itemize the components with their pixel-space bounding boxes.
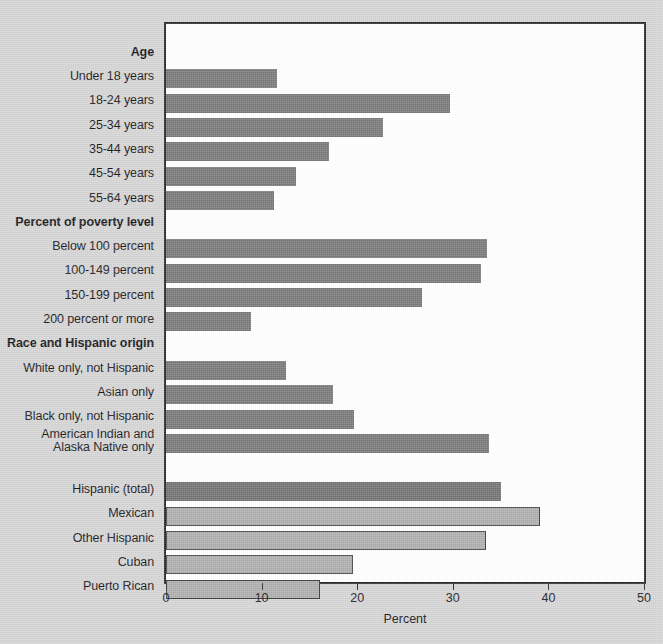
category-label: Below 100 percent xyxy=(52,240,154,254)
category-label: Cuban xyxy=(118,556,154,570)
category-label: 150-199 percent xyxy=(64,289,154,303)
group-header-label: Race and Hispanic origin xyxy=(7,337,154,351)
bar xyxy=(166,118,383,137)
x-tick-label: 10 xyxy=(242,591,282,605)
bar xyxy=(166,555,353,574)
x-tick-mark xyxy=(166,583,167,590)
category-label: 100-149 percent xyxy=(64,264,154,278)
bar xyxy=(166,239,487,258)
category-labels-column: AgeUnder 18 years18-24 years25-34 years3… xyxy=(0,22,160,583)
category-label: Under 18 years xyxy=(70,70,154,84)
x-tick-mark xyxy=(262,583,263,590)
x-tick-mark xyxy=(453,583,454,590)
bar xyxy=(166,191,274,210)
x-axis-title: Percent xyxy=(164,612,646,626)
bar xyxy=(166,69,277,88)
x-tick-mark xyxy=(357,583,358,590)
bar xyxy=(166,94,450,113)
bar xyxy=(166,264,481,283)
category-label: American Indian and Alaska Native only xyxy=(41,428,154,455)
category-label: Black only, not Hispanic xyxy=(25,410,154,424)
bar xyxy=(166,531,486,550)
category-label: 200 percent or more xyxy=(43,313,154,327)
x-tick-mark xyxy=(548,583,549,590)
category-label: 55-64 years xyxy=(89,192,154,206)
group-header-label: Percent of poverty level xyxy=(15,216,154,230)
category-label: Puerto Rican xyxy=(83,580,154,594)
category-label: Hispanic (total) xyxy=(72,483,154,497)
x-tick-mark xyxy=(644,583,645,590)
plot-area xyxy=(164,22,646,584)
category-label: 45-54 years xyxy=(89,167,154,181)
x-tick-label: 40 xyxy=(528,591,568,605)
bar xyxy=(166,507,540,526)
category-label: Asian only xyxy=(97,386,154,400)
x-tick-label: 0 xyxy=(146,591,186,605)
category-label: White only, not Hispanic xyxy=(23,362,154,376)
bars-container xyxy=(166,24,644,582)
bar xyxy=(166,385,333,404)
x-tick-label: 50 xyxy=(624,591,663,605)
category-label: 25-34 years xyxy=(89,119,154,133)
bar xyxy=(166,410,354,429)
bar xyxy=(166,312,251,331)
bar xyxy=(166,167,296,186)
group-header-label: Age xyxy=(131,46,154,60)
bar xyxy=(166,361,286,380)
bar xyxy=(166,434,489,453)
bar xyxy=(166,288,422,307)
bar xyxy=(166,142,329,161)
category-label: 35-44 years xyxy=(89,143,154,157)
x-tick-label: 20 xyxy=(337,591,377,605)
horizontal-bar-chart: AgeUnder 18 years18-24 years25-34 years3… xyxy=(0,0,663,644)
category-label: 18-24 years xyxy=(89,94,154,108)
bar xyxy=(166,482,501,501)
x-tick-label: 30 xyxy=(433,591,473,605)
category-label: Other Hispanic xyxy=(73,532,154,546)
category-label: Mexican xyxy=(108,507,154,521)
